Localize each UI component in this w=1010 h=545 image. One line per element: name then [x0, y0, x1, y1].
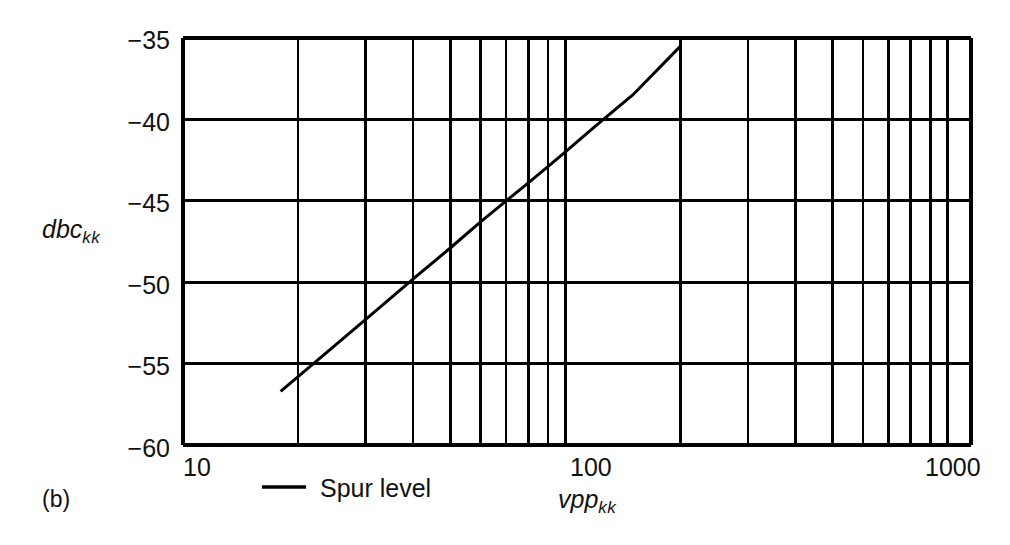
legend-entry-label: Spur level — [320, 474, 431, 503]
axes-frame — [183, 38, 971, 445]
ytick-label-4: −55 — [95, 352, 170, 381]
xtick-label-1: 100 — [570, 453, 612, 482]
ytick-label-3: −50 — [95, 271, 170, 300]
x-axis-title: vppkk — [558, 485, 616, 514]
xtick-label-2: 1000 — [925, 453, 981, 482]
ytick-label-2: −45 — [95, 189, 170, 218]
y-axis-title: dbckk — [42, 215, 100, 244]
panel-label: (b) — [42, 486, 70, 513]
gridlines-group — [183, 38, 971, 445]
xtick-label-0: 10 — [183, 453, 211, 482]
x-axis-title-base: vpp — [558, 485, 598, 513]
y-axis-title-sub: kk — [82, 228, 100, 247]
ytick-label-5: −60 — [95, 434, 170, 463]
x-axis-title-sub: kk — [598, 498, 616, 517]
figure-panel-b: −35 −40 −45 −50 −55 −60 10 100 1000 dbck… — [0, 0, 1010, 545]
y-axis-title-base: dbc — [42, 215, 82, 243]
ytick-label-1: −40 — [95, 108, 170, 137]
ytick-label-0: −35 — [95, 26, 170, 55]
